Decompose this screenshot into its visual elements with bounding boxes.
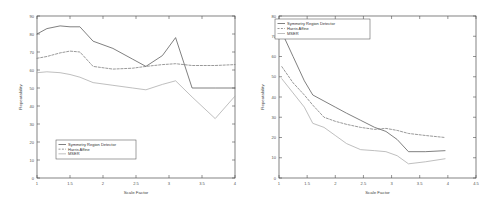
x-tick-label: 1.5	[67, 181, 73, 186]
y-tick-label: 30	[271, 115, 276, 120]
right-y-axis-label: Repeatability	[260, 84, 265, 110]
x-tick-label: 2.5	[133, 181, 139, 186]
x-tick-label: 1	[278, 181, 281, 186]
y-tick-label: 70	[29, 50, 34, 55]
x-tick-label: 2	[334, 181, 337, 186]
left-y-axis-label: Repeatability	[18, 84, 23, 110]
y-tick-label: 80	[29, 32, 34, 37]
right-series-group	[282, 32, 445, 164]
figure-container: 11.522.533.54 0102030405060708090 Symmet…	[0, 0, 487, 204]
legend-label-2: MSER	[68, 151, 80, 156]
left-x-axis-label: Scale Factor	[124, 190, 149, 195]
x-tick-label: 2.5	[361, 181, 367, 186]
right-legend[interactable]: Symmetry Region DetectorHarris AffineMSE…	[275, 19, 370, 39]
x-tick-label: 3	[390, 181, 393, 186]
y-tick-label: 90	[29, 14, 34, 19]
right-x-axis-label: Scale Factor	[365, 190, 390, 195]
series-line-2	[37, 72, 235, 119]
x-tick-label: 3	[168, 181, 171, 186]
x-tick-label: 1	[36, 181, 39, 186]
legend-label-2: MSER	[287, 31, 299, 36]
y-tick-label: 20	[29, 140, 34, 145]
y-tick-label: 10	[29, 158, 34, 163]
series-line-0	[282, 32, 445, 151]
right-plot-frame	[279, 16, 476, 178]
x-tick-label: 3.5	[199, 181, 205, 186]
y-tick-label: 60	[271, 54, 276, 59]
y-tick-label: 10	[271, 155, 276, 160]
x-tick-label: 4	[234, 181, 237, 186]
y-tick-label: 60	[29, 68, 34, 73]
y-tick-label: 0	[274, 176, 277, 181]
y-tick-label: 0	[32, 176, 35, 181]
left-legend[interactable]: Symmetry Region DetectorHarris AffineMSE…	[56, 140, 136, 159]
x-tick-label: 4.5	[473, 181, 479, 186]
chart-panel-left: 11.522.533.54 0102030405060708090 Symmet…	[0, 0, 243, 204]
left-chart-svg: 11.522.533.54 0102030405060708090 Symmet…	[0, 0, 243, 204]
x-tick-label: 3.5	[417, 181, 423, 186]
y-tick-label: 40	[271, 95, 276, 100]
x-tick-label: 4	[447, 181, 450, 186]
y-tick-label: 80	[271, 14, 276, 19]
y-tick-label: 40	[29, 104, 34, 109]
series-line-1	[282, 67, 445, 138]
y-tick-label: 50	[271, 74, 276, 79]
x-tick-label: 1.5	[304, 181, 310, 186]
x-tick-label: 2	[102, 181, 105, 186]
y-tick-label: 30	[29, 122, 34, 127]
series-line-1	[37, 51, 235, 69]
left-series-group	[37, 26, 235, 119]
right-x-axis-ticks: 11.522.533.544.5	[278, 16, 480, 186]
chart-panel-right: 11.522.533.544.5 01020304050607080 Symme…	[243, 0, 486, 204]
series-line-0	[37, 26, 235, 88]
right-chart-svg: 11.522.533.544.5 01020304050607080 Symme…	[243, 0, 487, 204]
y-tick-label: 50	[29, 86, 34, 91]
left-x-axis-ticks: 11.522.533.54	[36, 16, 237, 186]
y-tick-label: 20	[271, 135, 276, 140]
